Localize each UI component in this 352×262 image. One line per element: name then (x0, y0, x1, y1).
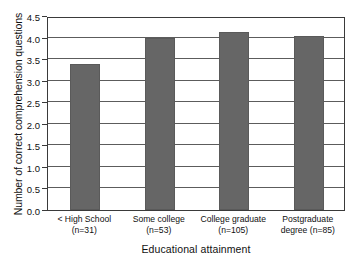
x-axis-title: Educational attainment (47, 243, 345, 255)
y-tick-label: 1.0 (27, 162, 40, 173)
x-tick-label-line1: < High School (57, 214, 111, 224)
bar-chart: Number of correct comprehension question… (0, 0, 352, 262)
y-tick-label: 1.5 (27, 141, 40, 152)
y-tick-label: 2.5 (27, 98, 40, 109)
y-tick-label: 4.0 (27, 33, 40, 44)
y-tick-label: 0.5 (27, 184, 40, 195)
x-tick-label-line1: College graduate (201, 214, 266, 224)
bar (294, 36, 324, 210)
y-tick-label: 2.0 (27, 119, 40, 130)
bar (145, 38, 175, 210)
x-tick-label-line1: Some college (133, 214, 185, 224)
bar (70, 64, 100, 210)
x-tick-label: Some college(n=53) (122, 214, 197, 236)
x-tick-label-line2: (n=31) (47, 225, 122, 236)
x-tick-label: Postgraduatedegree (n=85) (271, 214, 346, 236)
x-axis-tick-labels: < High School(n=31)Some college(n=53)Col… (47, 214, 345, 244)
y-tick-label: 3.0 (27, 76, 40, 87)
y-axis-tick-labels: 0.00.51.01.52.02.53.03.54.04.5 (0, 17, 47, 211)
x-tick-label: < High School(n=31) (47, 214, 122, 236)
plot-area (47, 17, 345, 211)
y-tick-label: 0.0 (27, 206, 40, 217)
x-tick-label-line2: (n=53) (122, 225, 197, 236)
x-tick-label-line2: degree (n=85) (271, 225, 346, 236)
x-tick-label-line1: Postgraduate (282, 214, 333, 224)
x-tick-label: College graduate(n=105) (196, 214, 271, 236)
y-tick-label: 4.5 (27, 12, 40, 23)
bar (219, 32, 249, 210)
y-tick-label: 3.5 (27, 55, 40, 66)
x-tick-label-line2: (n=105) (196, 225, 271, 236)
